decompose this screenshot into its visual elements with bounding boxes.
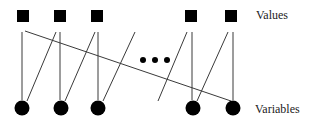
edge-line bbox=[27, 32, 56, 101]
variable-node-circle bbox=[226, 101, 241, 116]
edge-line bbox=[25, 31, 231, 101]
edge-line bbox=[65, 32, 95, 101]
edges bbox=[22, 31, 233, 101]
ellipsis-dot bbox=[140, 57, 146, 63]
value-node-square bbox=[185, 10, 197, 22]
value-node-square bbox=[91, 10, 103, 22]
variable-nodes bbox=[15, 101, 241, 116]
value-node-square bbox=[17, 10, 29, 22]
value-node-square bbox=[54, 10, 66, 22]
variable-node-circle bbox=[54, 101, 69, 116]
ellipsis-dots bbox=[140, 57, 170, 63]
variable-node-circle bbox=[91, 101, 106, 116]
ellipsis-dot bbox=[152, 57, 158, 63]
variable-node-circle bbox=[15, 101, 30, 116]
edge-line bbox=[158, 32, 187, 101]
value-node-square bbox=[225, 10, 237, 22]
variables-label: Variables bbox=[255, 103, 300, 115]
values-label: Values bbox=[256, 9, 288, 21]
value-nodes bbox=[17, 10, 237, 22]
ellipsis-dot bbox=[164, 57, 170, 63]
variable-node-circle bbox=[186, 101, 201, 116]
